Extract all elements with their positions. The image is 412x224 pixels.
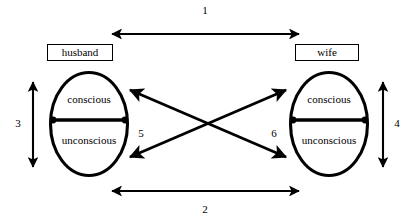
- arrow-6-number: 6: [266, 127, 282, 140]
- wife-unconscious-label: unconscious: [290, 134, 368, 147]
- wife-ellipse: [291, 73, 368, 176]
- arrow-5-number: 5: [133, 127, 149, 140]
- diagram-vector-layer: [0, 0, 412, 224]
- arrow-2-number: 2: [197, 203, 213, 216]
- diagram-canvas: husband wife conscious unconscious consc…: [0, 0, 412, 224]
- husband-label-box: husband: [47, 44, 113, 61]
- wife-conscious-label: conscious: [290, 93, 368, 106]
- husband-conscious-label: conscious: [50, 93, 128, 106]
- husband-divider-dot-right: [122, 117, 129, 124]
- wife-label-box: wife: [295, 44, 359, 61]
- wife-divider-dot-left: [290, 117, 297, 124]
- wife-divider-dot-right: [362, 117, 369, 124]
- husband-label-text: husband: [62, 46, 99, 58]
- arrow-3-number: 3: [10, 117, 26, 130]
- husband-ellipse: [51, 73, 128, 176]
- wife-label-text: wife: [317, 46, 337, 58]
- husband-divider-dot-left: [50, 117, 57, 124]
- husband-unconscious-label: unconscious: [50, 134, 128, 147]
- arrow-4-number: 4: [389, 117, 405, 130]
- arrow-1-number: 1: [197, 4, 213, 17]
